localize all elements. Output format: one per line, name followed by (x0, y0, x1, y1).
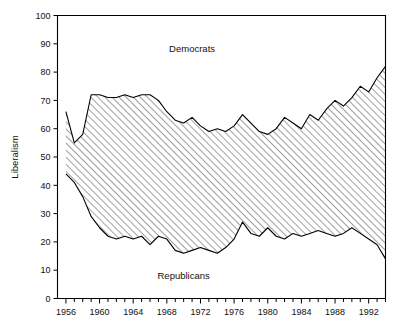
svg-text:90: 90 (40, 39, 50, 49)
svg-text:20: 20 (40, 237, 50, 247)
svg-text:70: 70 (40, 96, 50, 106)
svg-text:1968: 1968 (157, 307, 177, 317)
svg-text:Democrats: Democrats (169, 43, 215, 54)
svg-text:1980: 1980 (258, 307, 278, 317)
svg-text:40: 40 (40, 181, 50, 191)
svg-text:1956: 1956 (56, 307, 76, 317)
svg-text:Liberalism: Liberalism (9, 135, 20, 178)
svg-text:1972: 1972 (190, 307, 210, 317)
svg-text:1992: 1992 (359, 307, 379, 317)
svg-text:1984: 1984 (291, 307, 311, 317)
svg-text:Republicans: Republicans (158, 270, 211, 281)
liberalism-area-chart: 0102030405060708090100195619601964196819… (0, 0, 406, 330)
series-band-democrats-republicans (66, 66, 386, 258)
svg-text:80: 80 (40, 67, 50, 77)
svg-text:10: 10 (40, 265, 50, 275)
svg-text:1964: 1964 (123, 307, 143, 317)
chart-figure: 0102030405060708090100195619601964196819… (0, 0, 406, 330)
svg-text:0: 0 (45, 294, 50, 304)
svg-text:1960: 1960 (90, 307, 110, 317)
svg-text:50: 50 (40, 152, 50, 162)
svg-text:30: 30 (40, 209, 50, 219)
svg-text:60: 60 (40, 124, 50, 134)
svg-text:100: 100 (35, 11, 50, 21)
svg-text:1988: 1988 (325, 307, 345, 317)
svg-text:1976: 1976 (224, 307, 244, 317)
